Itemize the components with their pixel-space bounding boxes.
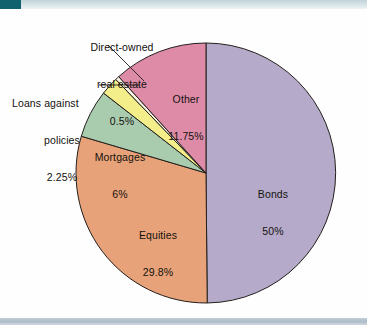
label-direct-owned-line1: Direct-owned xyxy=(64,41,180,53)
top-band-tab xyxy=(0,0,21,9)
bottom-decorative-band xyxy=(0,318,367,325)
label-mortgages-value: 6% xyxy=(78,188,162,200)
top-band-gradient xyxy=(21,0,367,9)
chart-page: Direct-owned real estate 0.5% Loans agai… xyxy=(0,0,367,329)
label-bonds-name: Bonds xyxy=(240,188,306,200)
label-loans-line1: Loans against xyxy=(2,97,122,109)
label-other-value: 11.75% xyxy=(148,130,224,142)
label-other: Other 11.75% xyxy=(148,69,224,167)
label-equities-value: 29.8% xyxy=(118,266,198,278)
label-equities-name: Equities xyxy=(118,229,198,241)
label-bonds: Bonds 50% xyxy=(240,164,306,262)
chart-stage: Direct-owned real estate 0.5% Loans agai… xyxy=(0,9,367,318)
label-other-name: Other xyxy=(148,93,224,105)
top-decorative-band xyxy=(0,0,367,9)
label-equities: Equities 29.8% xyxy=(118,205,198,303)
label-bonds-value: 50% xyxy=(240,225,306,237)
